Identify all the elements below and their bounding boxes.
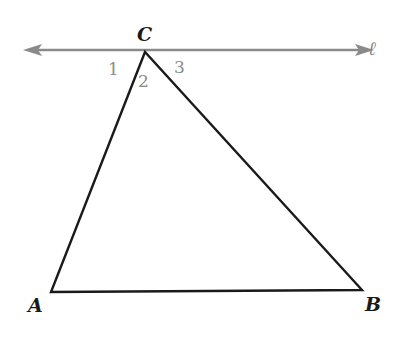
line-label-l: ℓ <box>368 37 376 59</box>
angle-label-1: 1 <box>108 59 119 79</box>
vertex-label-c: C <box>137 23 152 45</box>
vertex-label-a: A <box>26 294 43 316</box>
angle-label-3: 3 <box>174 57 185 77</box>
angle-label-2: 2 <box>138 71 149 91</box>
triangle-abc <box>51 52 362 292</box>
triangle-diagram: ℓ C A B 1 2 3 <box>0 0 401 339</box>
vertex-label-b: B <box>364 293 381 315</box>
line-l <box>23 44 374 56</box>
